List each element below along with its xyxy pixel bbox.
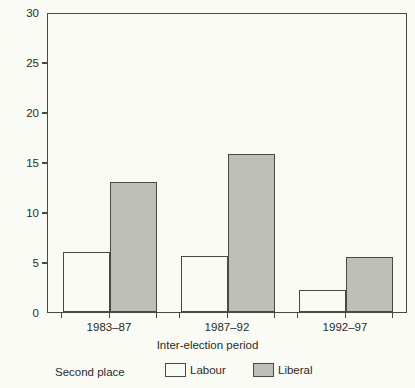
x-tick-label: 1983–87 — [87, 321, 132, 334]
bar-liberal-1987-92 — [228, 154, 275, 312]
legend-swatch-liberal-icon — [253, 363, 274, 377]
plot-area — [47, 13, 407, 313]
y-tick-label: 10 — [13, 208, 39, 218]
x-axis-title: Inter-election period — [0, 339, 415, 352]
y-tick-label: 25 — [13, 58, 39, 68]
x-tick-label: 1987–92 — [205, 321, 250, 334]
x-tick-mark — [109, 313, 110, 318]
bar-labour-1983-87 — [63, 252, 110, 312]
legend-entry-labour: Labour — [165, 362, 226, 378]
x-tick-mark — [61, 313, 62, 318]
bar-liberal-1983-87 — [110, 182, 157, 312]
bar-labour-1992-97 — [299, 290, 346, 312]
bar-labour-1987-92 — [181, 256, 228, 312]
y-tick-label: 15 — [13, 158, 39, 168]
y-tick-label: 0 — [13, 308, 39, 318]
x-tick-label: 1992–97 — [323, 321, 368, 334]
x-tick-mark — [179, 313, 180, 318]
x-tick-mark — [297, 313, 298, 318]
x-tick-mark — [345, 313, 346, 318]
y-axis-title: Labour–Liberal — [2, 0, 16, 41]
x-tick-mark — [227, 313, 228, 318]
legend-title: Second place — [55, 364, 125, 380]
chart-legend: Second place Labour Liberal — [0, 362, 415, 384]
bar-chart-figure: 30 25 20 15 10 5 0 Labour–Liberal 1983–8… — [0, 0, 415, 388]
legend-swatch-labour-icon — [165, 363, 186, 377]
y-axis: 30 25 20 15 10 5 0 — [0, 0, 47, 388]
legend-label-labour: Labour — [190, 362, 226, 378]
bar-liberal-1992-97 — [346, 257, 393, 312]
legend-entry-liberal: Liberal — [253, 362, 313, 378]
y-tick-label: 5 — [13, 258, 39, 268]
y-tick-label: 20 — [13, 108, 39, 118]
x-tick-mark — [156, 313, 157, 318]
legend-label-liberal: Liberal — [278, 362, 313, 378]
x-tick-mark — [392, 313, 393, 318]
x-tick-mark — [274, 313, 275, 318]
y-tick-label: 30 — [13, 8, 39, 18]
